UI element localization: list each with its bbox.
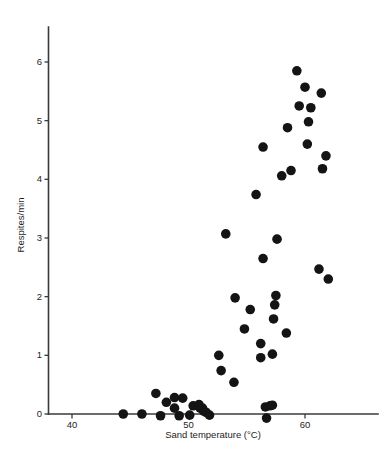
x-axis-title: Sand temperature (°C) (165, 429, 261, 440)
data-point (214, 351, 224, 361)
data-point (162, 397, 172, 407)
data-point (268, 349, 278, 359)
data-point (170, 393, 180, 403)
data-points (118, 66, 333, 423)
data-point (229, 378, 239, 388)
data-point (306, 103, 316, 113)
y-tick-label: 1 (37, 349, 42, 360)
data-point (178, 393, 188, 403)
axes (49, 27, 379, 414)
data-point (258, 254, 268, 264)
data-point (269, 314, 279, 324)
data-point (245, 305, 255, 315)
data-point (283, 123, 293, 133)
data-point (258, 142, 268, 152)
y-tick-label: 4 (37, 173, 42, 184)
data-point (118, 409, 128, 419)
y-tick-label: 0 (37, 408, 42, 419)
data-point (151, 389, 161, 399)
plot-area: 0123456 405060 Sand temperature (°C) Res… (0, 0, 391, 464)
data-point (286, 166, 296, 176)
y-tick-label: 6 (37, 56, 42, 67)
data-point (268, 400, 278, 410)
data-point (256, 353, 266, 363)
data-point (300, 82, 310, 92)
data-point (277, 171, 287, 181)
data-point (303, 139, 313, 149)
data-point (137, 409, 147, 419)
y-axis-title: Respites/min (15, 198, 26, 253)
data-point (270, 300, 280, 310)
data-point (324, 274, 334, 284)
x-tick-label: 40 (67, 419, 78, 430)
data-point (272, 234, 282, 244)
data-point (251, 190, 261, 200)
data-point (256, 339, 266, 349)
data-point (174, 411, 184, 421)
data-point (271, 291, 281, 301)
data-point (221, 229, 231, 239)
y-tick-label: 2 (37, 291, 42, 302)
data-point (318, 164, 328, 174)
data-point (292, 66, 302, 76)
scatter-chart-figure: 0123456 405060 Sand temperature (°C) Res… (0, 0, 391, 464)
data-point (240, 324, 250, 334)
y-tick-label: 5 (37, 115, 42, 126)
data-point (205, 410, 215, 420)
data-point (304, 117, 314, 127)
data-point (294, 101, 304, 111)
data-point (282, 328, 292, 338)
data-point (321, 151, 331, 161)
y-axis-ticks: 0123456 (37, 56, 49, 419)
y-tick-label: 3 (37, 232, 42, 243)
data-point (262, 413, 272, 423)
data-point (216, 366, 226, 376)
x-tick-label: 60 (300, 419, 311, 430)
data-point (317, 88, 327, 98)
data-point (314, 264, 324, 274)
data-point (230, 293, 240, 303)
data-point (185, 410, 195, 420)
data-point (156, 411, 166, 421)
